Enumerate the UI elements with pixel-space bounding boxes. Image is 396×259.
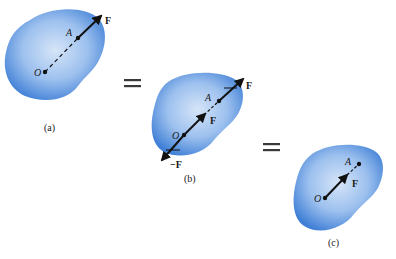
caption-a: (a) [44,122,55,134]
rigid-body-a [5,9,105,100]
label-F-b-middle: F [210,115,216,126]
point-A-c [357,162,361,166]
point-O-a [43,70,47,74]
label-A-a: A [65,27,73,38]
panel-b: O A F F −F (b) [152,73,252,185]
label-F-a: F [105,15,111,26]
label-A-c: A [344,156,352,167]
caption-c: (c) [328,237,339,249]
panel-c: O A F (c) [294,145,383,249]
equals-sign-1 [124,79,141,87]
transmissibility-diagram: O A F (a) O A F F −F (b) O [0,0,396,259]
point-A-a [76,36,80,40]
label-O-c: O [314,193,321,204]
equals-sign-2 [263,143,280,151]
point-O-c [323,196,327,200]
point-A-b [217,99,221,103]
label-F-c: F [352,178,358,189]
panel-a: O A F (a) [5,9,111,134]
label-F-b-upper: F [246,80,252,91]
label-O-a: O [34,67,41,78]
label-A-b: A [204,92,212,103]
caption-b: (b) [184,173,196,185]
label-minus-F-b: −F [170,159,182,170]
point-O-b [182,133,186,137]
label-O-b: O [172,130,179,141]
rigid-body-c [294,145,383,231]
rigid-body-b [152,73,243,156]
